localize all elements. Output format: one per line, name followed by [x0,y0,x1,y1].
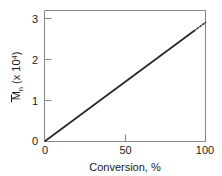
x-tick-label-50: 50 [119,144,131,156]
series-line-extrapolated [194,22,205,30]
x-axis-title: Conversion, % [89,161,161,173]
x-tick-label-0: 0 [42,144,48,156]
y-tick-label-3: 3 [32,13,38,25]
plot-frame [45,11,206,142]
y-axis-title-scale-open: (x 10 [10,59,22,87]
x-tick-marks [126,135,206,142]
y-tick-marks [45,19,52,101]
y-tick-label-1: 1 [32,95,38,107]
series-line-measured [45,31,195,142]
y-tick-label-0: 0 [32,135,38,147]
x-tick-label-100: 100 [196,144,214,156]
y-axis-title-scale-close: ) [10,52,22,56]
chart-figure: 3 2 1 0 0 50 100 Conversion, % Mn (x 104… [0,0,222,176]
y-axis-title: Mn (x 104) [10,52,25,103]
line-chart: 3 2 1 0 0 50 100 Conversion, % Mn (x 104… [0,0,222,176]
y-axis-title-text: Mn (x 104) [10,52,25,101]
y-tick-label-2: 2 [32,54,38,66]
